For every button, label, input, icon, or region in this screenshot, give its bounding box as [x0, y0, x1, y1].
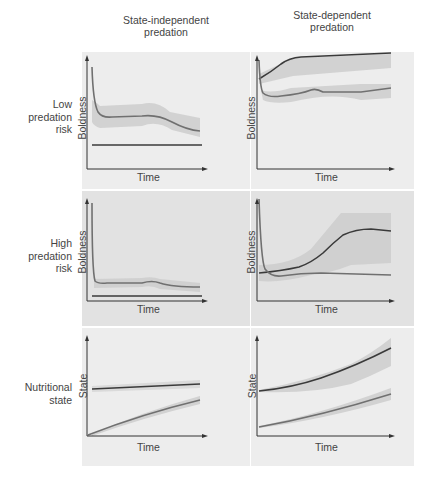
panel-low-risk-state-dependent: Boldness Time	[251, 52, 414, 189]
x-axis-label: Time	[137, 303, 160, 315]
row-header-line2: state	[0, 394, 72, 407]
x-axis-label: Time	[137, 171, 160, 183]
y-axis-label: Boldness	[245, 230, 257, 273]
y-axis-label: State	[246, 374, 258, 399]
row-header-nutritional-state: Nutritional state	[0, 381, 72, 406]
row-header-line3: risk	[0, 262, 72, 275]
column-header-line1: State-dependent	[248, 9, 416, 21]
x-axis-label: Time	[137, 441, 160, 453]
column-header-state-independent: State-independent predation	[82, 14, 250, 38]
panel-low-risk-state-independent: Boldness Time	[82, 52, 250, 189]
row-header-line1: High	[0, 237, 72, 250]
row-header-line3: risk	[0, 123, 72, 136]
row-header-line1: Low	[0, 98, 72, 111]
column-header-line2: predation	[248, 21, 416, 33]
column-header-line1: State-independent	[82, 14, 250, 26]
y-axis-label: Boldness	[76, 230, 88, 273]
plot-nutritional-independent	[82, 328, 250, 466]
row-header-line2: predation	[0, 250, 72, 263]
y-axis-label: State	[77, 374, 89, 399]
row-header-line1: Nutritional	[0, 381, 72, 394]
plot-high-independent	[82, 191, 250, 326]
x-axis-label: Time	[315, 441, 338, 453]
row-header-low-risk: Low predation risk	[0, 98, 72, 136]
panel-nutritional-state-dependent: State Time	[251, 328, 414, 466]
y-axis-label: Boldness	[76, 96, 88, 139]
panel-high-risk-state-dependent: Boldness Time	[251, 191, 414, 326]
x-axis-label: Time	[315, 171, 338, 183]
y-axis-label: Boldness	[245, 96, 257, 139]
column-header-line2: predation	[82, 26, 250, 38]
panel-nutritional-state-independent: State Time	[82, 328, 250, 466]
plot-low-dependent	[251, 52, 414, 189]
row-header-line2: predation	[0, 111, 72, 124]
x-axis-label: Time	[315, 303, 338, 315]
plot-low-independent	[82, 52, 250, 189]
panel-high-risk-state-independent: Boldness Time	[82, 191, 250, 326]
row-header-high-risk: High predation risk	[0, 237, 72, 275]
column-header-state-dependent: State-dependent predation	[248, 9, 416, 33]
